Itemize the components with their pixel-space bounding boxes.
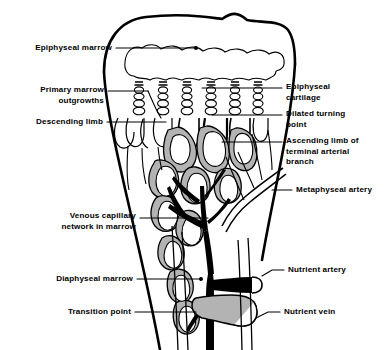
label-ascending-limb: Ascending limb of terminal arterial bran… (286, 136, 390, 168)
label-epiphyseal-cartilage: Epiphyseal cartilage (286, 82, 390, 103)
epiphyseal-marrow-boundary (125, 45, 284, 80)
label-nutrient-artery: Nutrient artery (288, 265, 388, 276)
label-diaphyseal-marrow: Diaphyseal marrow (8, 274, 133, 285)
nutrient-artery-lumen (252, 277, 262, 293)
label-nutrient-vein: Nutrient vein (284, 307, 384, 318)
label-dilated-turning-point: Dilated turning point (286, 109, 390, 130)
label-descending-limb: Descending limb (8, 117, 103, 128)
label-venous-capillary-network: Venous capillary network in marrow (8, 211, 136, 232)
figure-canvas: Epiphyseal marrow Primary marrow outgrow… (0, 0, 392, 350)
label-metaphyseal-artery: Metaphyseal artery (296, 185, 392, 196)
label-primary-marrow-outgrowths: Primary marrow outgrowths (8, 85, 104, 106)
label-epiphyseal-marrow: Epiphyseal marrow (8, 43, 112, 54)
label-transition-point: Transition point (8, 307, 131, 318)
epiphyseal-cartilage-cell-columns (133, 82, 263, 115)
